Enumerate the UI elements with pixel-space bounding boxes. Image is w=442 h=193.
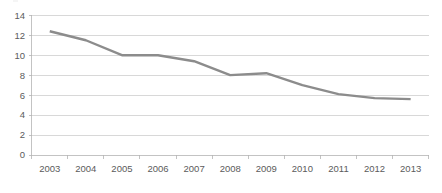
x-axis-tick-label: 2005 [111, 163, 132, 174]
y-axis-tick-label: 10 [14, 50, 25, 61]
x-axis-tick-label: 2012 [364, 163, 385, 174]
y-axis-tick-label: 6 [20, 90, 25, 101]
data-series-group [50, 31, 411, 99]
x-axis-tick-label: 2010 [292, 163, 313, 174]
chart-canvas: 02468101214 2003200420052006200720082009… [0, 0, 442, 193]
y-axis-tick-label: 8 [20, 70, 25, 81]
y-axis-tick-label: 0 [20, 149, 25, 160]
line-chart-figure: 02468101214 2003200420052006200720082009… [0, 0, 442, 193]
x-axis-ticks-group [32, 155, 429, 159]
y-axis-labels-group: 02468101214 [14, 10, 31, 161]
y-axis-tick-label: 12 [14, 30, 25, 41]
y-axis-tick-label: 4 [20, 109, 25, 120]
x-axis-tick-label: 2013 [400, 163, 421, 174]
x-axis-tick-label: 2003 [39, 163, 60, 174]
y-axis-tick-label: 2 [20, 129, 25, 140]
data-line-series-1 [50, 31, 411, 99]
x-axis-tick-label: 2008 [220, 163, 241, 174]
y-axis-tick-label: 14 [14, 10, 25, 21]
x-axis-tick-label: 2011 [328, 163, 348, 174]
x-axis-labels-group: 2003200420052006200720082009201020112012… [39, 163, 421, 174]
x-axis-tick-label: 2007 [184, 163, 205, 174]
x-axis-tick-label: 2004 [75, 163, 96, 174]
x-axis-tick-label: 2006 [147, 163, 168, 174]
clipped-top-fragment [13, 0, 18, 2]
x-axis-tick-label: 2009 [256, 163, 277, 174]
